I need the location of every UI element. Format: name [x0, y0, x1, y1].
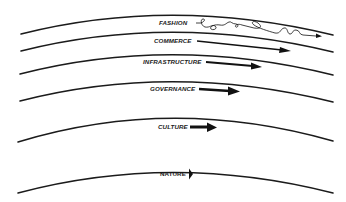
layer-governance: GOVERNANCE [150, 85, 240, 96]
governance-arrowhead-icon [228, 87, 240, 96]
pace-layers-diagram: FASHION COMMERCE INFRASTRUCTURE GOVERNAN… [0, 0, 346, 202]
nature-arrowhead-icon [189, 169, 193, 180]
layer-label-nature: NATURE [160, 170, 186, 177]
infrastructure-arrowhead-icon [251, 63, 262, 70]
fashion-arrowhead-icon [316, 34, 322, 39]
boundary-curve-5 [18, 118, 333, 142]
layer-label-fashion: FASHION [159, 19, 188, 26]
layer-infrastructure: INFRASTRUCTURE [143, 58, 262, 70]
layer-label-commerce: COMMERCE [154, 37, 192, 44]
commerce-arrow-shaft [197, 41, 282, 50]
commerce-arrowhead-icon [279, 47, 291, 53]
layer-nature: NATURE [160, 169, 193, 180]
layer-label-infrastructure: INFRASTRUCTURE [143, 58, 202, 65]
layer-label-culture: CULTURE [158, 123, 189, 130]
governance-arrow-shaft [199, 89, 230, 91]
layer-label-governance: GOVERNANCE [150, 85, 196, 92]
layer-culture: CULTURE [158, 123, 217, 133]
infrastructure-arrow-shaft [206, 62, 253, 66]
culture-arrowhead-icon [207, 123, 217, 133]
